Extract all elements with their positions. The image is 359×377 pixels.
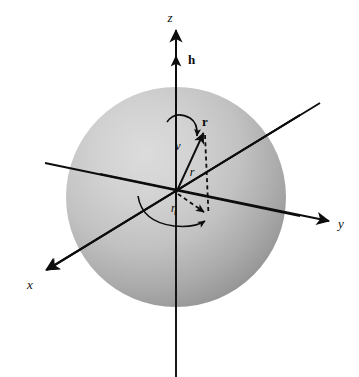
h-vector-label: h — [188, 52, 196, 67]
nu-angle-label: ν — [175, 139, 181, 153]
eta-angle-label: η — [171, 201, 177, 215]
figure-canvas: z y x h r ν η r — [0, 0, 359, 377]
r-vector-label: r — [202, 114, 208, 129]
y-axis-label: y — [336, 216, 344, 231]
r-magnitude-label: r — [190, 165, 195, 179]
spherical-coordinate-figure: z y x h r ν η r — [0, 0, 359, 377]
x-axis-label: x — [26, 277, 33, 292]
z-axis-label: z — [166, 10, 172, 25]
